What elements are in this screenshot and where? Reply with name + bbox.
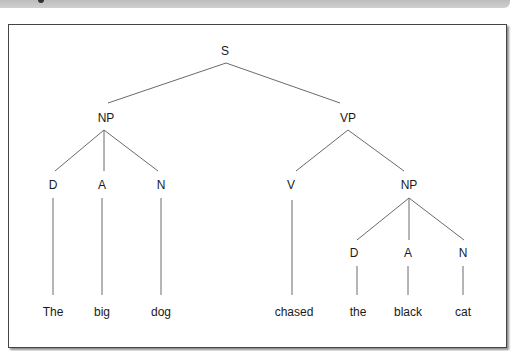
word-chased: chased bbox=[275, 305, 314, 319]
node-np2: NP bbox=[401, 178, 418, 192]
word-the2: the bbox=[350, 305, 367, 319]
tree-edge-s-vp bbox=[226, 63, 340, 103]
node-d1: D bbox=[49, 178, 58, 192]
tree-nodes: SNPVPDANVNPDANThebigdogchasedtheblackcat bbox=[43, 44, 472, 319]
tree-edge-np1-n1 bbox=[104, 130, 158, 171]
node-n1: N bbox=[157, 178, 166, 192]
tree-edge-np1-d1 bbox=[55, 130, 104, 171]
node-s: S bbox=[221, 44, 229, 58]
node-v: V bbox=[287, 178, 295, 192]
node-a1: A bbox=[98, 178, 106, 192]
tree-edge-vp-np2 bbox=[348, 130, 404, 171]
tree-edge-s-np1 bbox=[108, 63, 226, 103]
tree-edge-vp-v bbox=[296, 130, 348, 171]
word-cat: cat bbox=[455, 305, 472, 319]
word-big: big bbox=[94, 305, 110, 319]
node-n2: N bbox=[459, 246, 468, 260]
node-np1: NP bbox=[98, 111, 115, 125]
tree-edge-np2-d2 bbox=[357, 198, 409, 240]
node-a2: A bbox=[404, 246, 412, 260]
node-d2: D bbox=[350, 246, 359, 260]
syntax-tree: SNPVPDANVNPDANThebigdogchasedtheblackcat bbox=[0, 0, 516, 351]
word-the1: The bbox=[43, 305, 64, 319]
node-vp: VP bbox=[340, 111, 356, 125]
word-dog: dog bbox=[151, 305, 171, 319]
word-black: black bbox=[394, 305, 423, 319]
tree-edge-np2-n2 bbox=[409, 198, 464, 240]
